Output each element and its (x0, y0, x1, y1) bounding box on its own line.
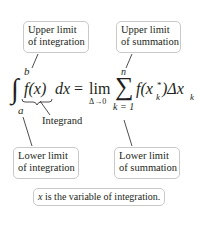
lower-limit-summation-label: Lower limit of summation (114, 147, 180, 179)
integrand-label: Integrand (42, 115, 82, 126)
underbrace (22, 99, 52, 105)
sum-term-f: f(x (136, 80, 153, 98)
integrand: f(x) (24, 80, 46, 98)
sum-term-sub: k (156, 92, 160, 102)
variable-note: x is the variable of integration. (33, 188, 165, 206)
upper-limit-summation-label: Upper limit of summation (116, 21, 181, 53)
sum-term-close: )Δx (162, 80, 184, 98)
differential: dx (55, 80, 70, 98)
sum-lower-limit: k = 1 (113, 101, 134, 112)
sum-term-sup: * (157, 80, 162, 90)
integral-upper-limit: b (24, 65, 30, 77)
lower-limit-integration-label: Lower limit of integration (13, 147, 79, 179)
integral-sign: ∫ (11, 73, 19, 105)
integral-lower-limit: a (18, 104, 24, 116)
sum-upper-limit: n (121, 66, 126, 77)
sum-term-sub2: k (190, 92, 194, 102)
lim: lim (89, 80, 110, 98)
equals-sign: = (74, 80, 83, 98)
upper-limit-integration-label: Upper limit of integration (23, 21, 89, 53)
lim-subscript: Δ→0 (89, 97, 106, 106)
